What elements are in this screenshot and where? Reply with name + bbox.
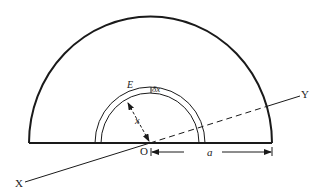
strip-outer-arc	[95, 87, 205, 143]
axis-line-dashed	[150, 106, 268, 143]
label-y-axis-end: Y	[301, 88, 309, 100]
strip-inner-arc	[101, 93, 199, 143]
label-e: E	[126, 79, 133, 90]
axis-line-y-side	[268, 96, 300, 106]
outer-semicircle	[29, 17, 272, 143]
label-origin: O	[140, 145, 148, 157]
label-a: a	[207, 146, 213, 158]
axis-line-x-side	[25, 143, 150, 182]
semicircle-diagram: X Y O E δx x a	[0, 0, 325, 196]
label-radius-x: x	[134, 115, 140, 126]
label-x-axis-end: X	[15, 177, 23, 189]
label-dx: δx	[152, 84, 160, 94]
